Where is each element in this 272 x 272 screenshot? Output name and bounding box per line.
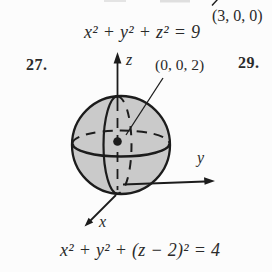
z-axis-arrowhead: [114, 52, 122, 64]
cropped-text-artifact: [104, 0, 126, 2]
cropped-text-artifact: [160, 0, 190, 3]
textbook-figure-page: (3, 0, 0) x² + y² + z² = 9 27. 29. z (0,…: [0, 0, 272, 272]
sphere-center-dot: [113, 137, 122, 146]
sphere-outline: [72, 96, 170, 194]
sphere-diagram: [0, 0, 272, 272]
x-axis-line: [90, 195, 116, 221]
cropped-arrow-artifact: [212, 0, 218, 6]
y-axis-arrowhead: [204, 177, 215, 184]
